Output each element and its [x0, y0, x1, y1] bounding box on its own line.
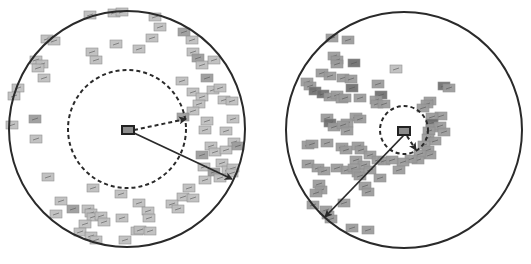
query-image-box[interactable]: [122, 126, 134, 134]
similarity-space-diagram: [0, 0, 531, 264]
query-image-box[interactable]: [398, 127, 410, 135]
right-panel: [286, 12, 522, 248]
left-panel: [6, 8, 245, 247]
nearest-neighbor-arrow: [134, 119, 186, 130]
thumbnail-cluster: [301, 34, 455, 234]
diagram-stage: [0, 0, 531, 264]
nearest-neighbor-arrow: [407, 136, 416, 150]
